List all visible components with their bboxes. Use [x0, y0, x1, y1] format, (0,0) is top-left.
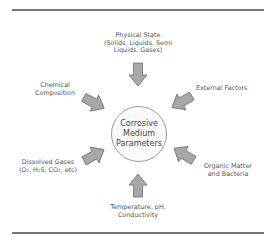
label-dissolved-gases: Dissolved Gases (O₂, H₂S, CO₂, etc) — [12, 159, 84, 174]
label-chemical-composition: Chemical Composition — [30, 82, 80, 97]
arrow-organic-matter — [169, 141, 198, 168]
arrow-physical-state — [129, 63, 147, 86]
arrow-chemical-composition — [80, 90, 109, 117]
center-line-2: Medium — [123, 129, 155, 139]
diagram: Corrosive Medium Parameters Physical Sta… — [0, 0, 274, 238]
arrow-external-factors — [167, 88, 196, 115]
center-line-1: Corrosive — [120, 119, 158, 129]
label-temperature: Temperature, pH, Conductivity — [98, 204, 178, 219]
center-line-3: Parameters — [116, 139, 162, 149]
center-node: Corrosive Medium Parameters — [111, 106, 167, 162]
label-physical-state: Physical State (Solids, Liquids, Semi Li… — [98, 32, 178, 55]
arrow-temperature — [129, 174, 147, 197]
label-organic-matter: Organic Matter and Bacteria — [198, 163, 258, 178]
label-external-factors: External Factors — [196, 85, 260, 93]
